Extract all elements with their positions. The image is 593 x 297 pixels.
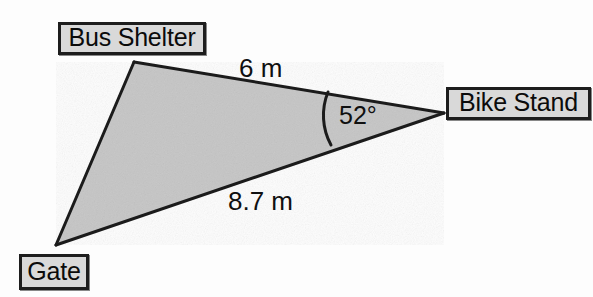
- diagram-canvas: Bus Shelter Bike Stand Gate 6 m 8.7 m 52…: [0, 0, 593, 297]
- angle-measure-label-52: 52°: [339, 103, 377, 128]
- side-length-label-6m: 6 m: [239, 55, 282, 81]
- vertex-label-bus-shelter: Bus Shelter: [58, 22, 206, 55]
- vertex-label-bike-stand: Bike Stand: [446, 87, 591, 120]
- vertex-label-gate: Gate: [19, 254, 89, 290]
- triangle-shape: [56, 62, 444, 245]
- side-length-label-8-7m: 8.7 m: [228, 188, 293, 214]
